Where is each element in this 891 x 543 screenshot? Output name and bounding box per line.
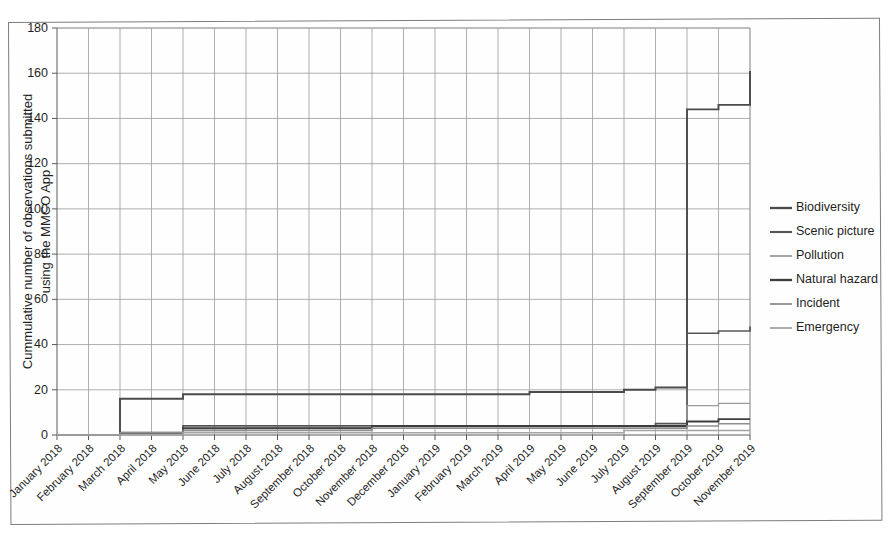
y-axis-title-line-2: using the MMCO App <box>38 170 53 294</box>
x-tick-label: February 2018 <box>35 442 96 503</box>
legend-label-pollution: Pollution <box>796 248 844 262</box>
chart-container: 020406080100120140160180 January 2018Feb… <box>0 0 891 543</box>
y-tick-label: 160 <box>27 66 48 80</box>
y-tick-label: 20 <box>34 383 48 397</box>
x-axis-tick-labels: January 2018February 2018March 2018April… <box>7 442 758 511</box>
legend-label-emergency: Emergency <box>796 320 860 334</box>
gridlines <box>57 28 750 435</box>
y-axis-title-line-1: Cummulative number of observations submi… <box>20 94 35 369</box>
y-tick-label: 40 <box>34 337 48 351</box>
x-tick-label: January 2018 <box>7 442 65 500</box>
y-tick-label: 180 <box>27 21 48 35</box>
x-tick-label: February 2019 <box>413 442 474 503</box>
legend-label-biodiversity: Biodiversity <box>796 200 861 214</box>
y-axis-title: Cummulative number of observations submi… <box>20 94 53 369</box>
axes <box>52 28 750 440</box>
chart-legend: BiodiversityScenic picturePollutionNatur… <box>770 200 878 334</box>
legend-label-incident: Incident <box>796 296 840 310</box>
line-chart: 020406080100120140160180 January 2018Feb… <box>0 0 891 543</box>
y-tick-label: 0 <box>41 428 48 442</box>
legend-label-scenic-picture: Scenic picture <box>796 224 875 238</box>
legend-label-natural-hazard: Natural hazard <box>796 272 878 286</box>
